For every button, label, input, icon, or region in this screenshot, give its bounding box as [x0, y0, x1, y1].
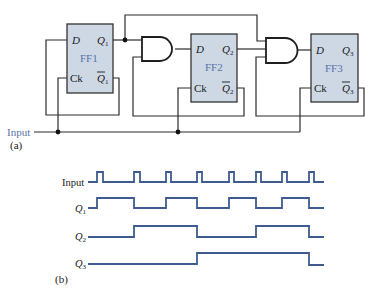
ff3-name: FF3 [325, 62, 343, 74]
caption-a: (a) [10, 139, 23, 152]
and-gate-2 [266, 38, 298, 63]
waveform-label-q2: Q2 [75, 231, 87, 244]
flipflop-ff2: D Q2 FF2 Ck Q2 [191, 34, 237, 102]
ff1-d-pin: D [71, 34, 80, 46]
circuit-diagram: D Q1 FF1 Ck Q1 D Q2 FF2 Ck Q2 D Q3 FF3 C [7, 15, 364, 152]
junction-dot-input-ff1 [56, 130, 61, 135]
and-gate-1 [142, 37, 172, 61]
caption-b: (b) [55, 273, 68, 286]
ff3-d-pin: D [315, 44, 324, 56]
flipflop-ff1: D Q1 FF1 Ck Q1 [67, 24, 113, 93]
waveform-label-q1: Q1 [75, 203, 87, 216]
input-label: Input [7, 126, 30, 138]
waveform-label-q3: Q3 [75, 258, 87, 271]
ff2-ck-pin: Ck [194, 82, 207, 94]
ff1-clock-wire [58, 78, 67, 132]
ff3-ck-pin: Ck [314, 82, 327, 94]
ff1-name: FF1 [80, 52, 98, 64]
ff1-ck-pin: Ck [70, 72, 83, 84]
waveform-q3 [88, 253, 324, 265]
junction-dot-q1 [123, 38, 128, 43]
ff2-name: FF2 [205, 61, 223, 73]
flipflop-ff3: D Q3 FF3 Ck Q3 [311, 34, 358, 102]
ff3-clock-wire [300, 88, 311, 132]
timing-diagram: Input Q1 Q2 Q3 (b) [55, 172, 324, 286]
ff2-clock-wire [178, 88, 191, 132]
waveform-label-input: Input [62, 177, 84, 188]
circuit-and-timing-diagram: D Q1 FF1 Ck Q1 D Q2 FF2 Ck Q2 D Q3 FF3 C [0, 0, 377, 295]
ff2-d-pin: D [195, 43, 204, 55]
junction-dot-input-ff2 [176, 130, 181, 135]
waveform-q1 [88, 198, 324, 208]
waveform-q2 [88, 226, 324, 237]
waveform-input [88, 172, 324, 182]
